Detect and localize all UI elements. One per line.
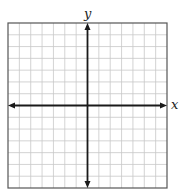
axes [8,23,167,188]
y-axis-label: y [83,6,92,21]
x-axis-label: x [171,97,179,112]
coordinate-plane: x y [0,0,182,190]
x-axis-left-arrow-icon [8,103,15,109]
y-axis-down-arrow-icon [85,181,91,188]
x-axis-right-arrow-icon [160,103,167,109]
y-axis-up-arrow-icon [85,23,91,30]
